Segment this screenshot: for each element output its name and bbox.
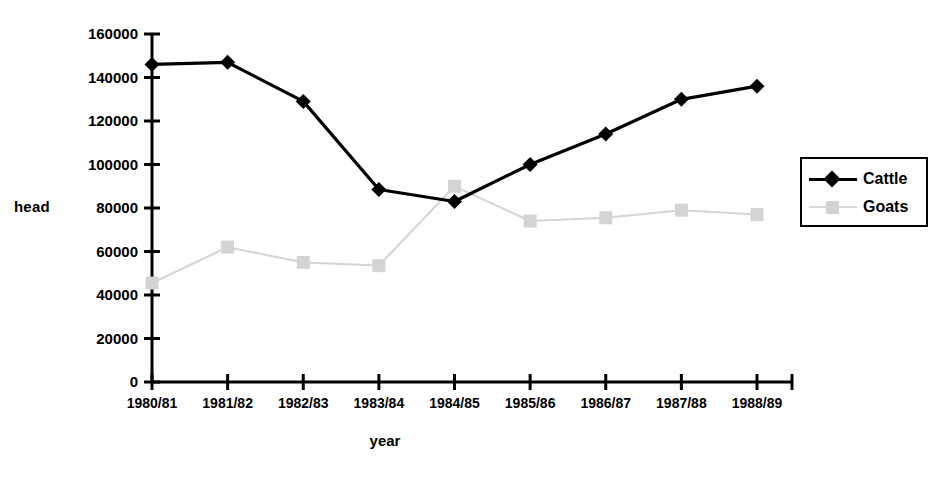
legend-label-goats: Goats — [863, 198, 908, 216]
axes — [144, 34, 792, 390]
legend-label-cattle: Cattle — [863, 170, 907, 188]
legend-swatch-goats — [809, 197, 857, 217]
legend-item-goats: Goats — [802, 193, 930, 221]
chart-container: head year 020000400006000080000100000120… — [0, 0, 951, 482]
data-series — [145, 55, 765, 290]
chart-legend: Cattle Goats — [800, 157, 928, 227]
diamond-marker-icon — [824, 171, 841, 188]
plot-area — [0, 0, 951, 482]
legend-swatch-cattle — [809, 169, 857, 189]
legend-item-cattle: Cattle — [802, 165, 930, 193]
square-marker-icon — [826, 201, 839, 214]
